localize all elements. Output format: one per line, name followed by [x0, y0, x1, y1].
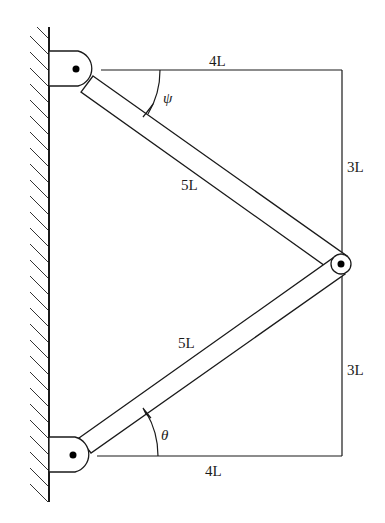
right-pin-joint — [331, 254, 351, 274]
top-pin-support — [49, 51, 92, 86]
lower-link — [79, 258, 345, 453]
label-upper-5L: 5L — [181, 177, 198, 193]
label-top-4L: 4L — [209, 53, 226, 69]
wall-hatching — [30, 20, 49, 503]
label-lower-3L: 3L — [347, 362, 364, 378]
label-upper-3L: 3L — [347, 159, 364, 175]
label-bottom-4L: 4L — [205, 463, 222, 479]
psi-angle-arc — [143, 70, 160, 117]
truss-diagram: 4L 3L 5L ψ 5L 3L θ 4L — [0, 0, 385, 523]
upper-link — [81, 76, 347, 273]
label-theta: θ — [161, 427, 169, 443]
label-psi: ψ — [163, 90, 173, 106]
bottom-pin-support — [49, 437, 89, 472]
label-lower-5L: 5L — [178, 335, 195, 351]
